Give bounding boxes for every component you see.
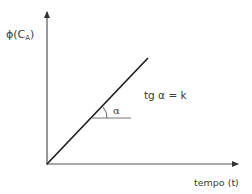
diagram-canvas [0,0,252,194]
angle-label: α [113,106,120,116]
y-label-close: ) [30,28,34,41]
slope-formula: tg α = k [144,90,187,101]
y-label-main: ϕ(C [6,28,25,41]
angle-arc [103,107,107,118]
data-line [47,58,148,164]
x-axis-label: tempo (t) [194,178,239,188]
y-axis-label: ϕ(CA) [6,29,34,42]
